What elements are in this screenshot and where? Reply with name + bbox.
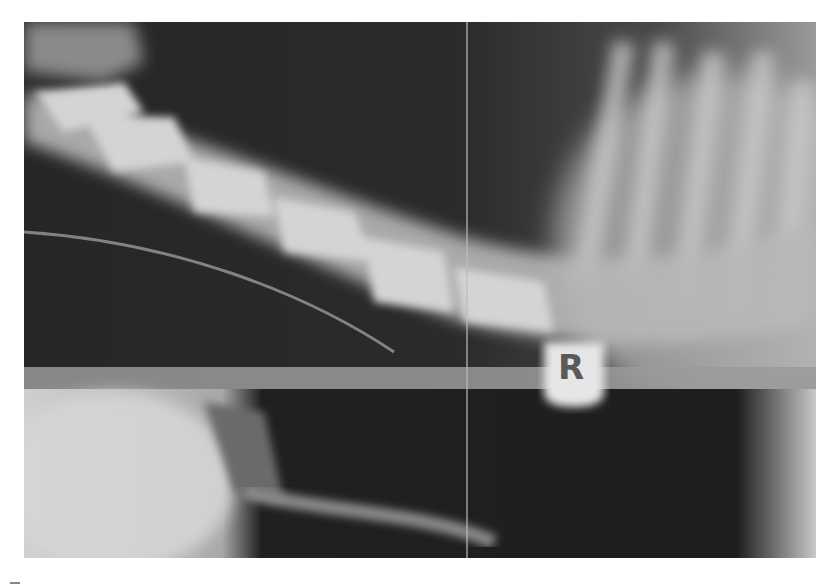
radiograph-image: R [24, 22, 816, 558]
corner-mark [10, 582, 20, 584]
radiograph-drawing [24, 22, 816, 558]
side-marker-label: R [558, 347, 584, 387]
